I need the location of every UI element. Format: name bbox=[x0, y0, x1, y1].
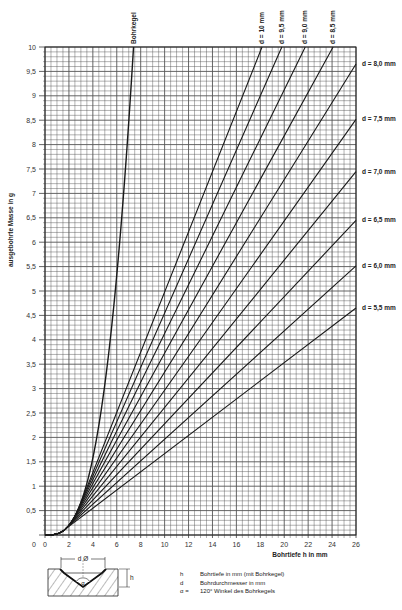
y-tick-label: 5 bbox=[32, 288, 36, 295]
label-top-curve: d = 8,5 mm bbox=[329, 10, 337, 44]
y-tick-label: 2,5 bbox=[26, 410, 36, 417]
y-tick-label: 6,5 bbox=[26, 214, 36, 221]
y-tick-label: 8,5 bbox=[26, 117, 36, 124]
label-right-curve: d = 5,5 mm bbox=[362, 304, 396, 312]
label-bohrkegel: Bohrkegel bbox=[130, 12, 138, 44]
y-tick-label: 10 bbox=[28, 44, 36, 51]
label-right-curve: d = 6,0 mm bbox=[362, 262, 396, 270]
x-tick-label: 24 bbox=[328, 541, 336, 548]
label-right-curve: d = 8,0 mm bbox=[362, 60, 396, 68]
legend-key: h bbox=[180, 570, 200, 579]
x-tick-label: 22 bbox=[304, 541, 312, 548]
y-tick-label: 4 bbox=[32, 336, 36, 343]
x-tick-label: 20 bbox=[280, 541, 288, 548]
x-tick-label: 12 bbox=[185, 541, 193, 548]
y-tick-label: 6 bbox=[32, 239, 36, 246]
legend-text: Bohrtiefe in mm (mit Bohrkegel) bbox=[200, 570, 284, 579]
legend-key: α = bbox=[180, 587, 200, 596]
x-tick-label: 18 bbox=[256, 541, 264, 548]
y-tick-label: 5,5 bbox=[26, 263, 36, 270]
alpha-label: α bbox=[81, 580, 85, 586]
origin-label: 0 bbox=[32, 541, 36, 548]
x-tick-label: 10 bbox=[161, 541, 169, 548]
y-tick-label: 3,5 bbox=[26, 361, 36, 368]
y-tick-label: 9 bbox=[32, 92, 36, 99]
y-tick-label: 3 bbox=[32, 385, 36, 392]
label-top-curve: d = 9,5 mm bbox=[278, 10, 286, 44]
x-tick-label: 2 bbox=[67, 541, 71, 548]
x-tick-label: 8 bbox=[139, 541, 143, 548]
label-right-curve: d = 7,0 mm bbox=[362, 168, 396, 176]
y-tick-label: 1 bbox=[32, 483, 36, 490]
x-tick-label: 14 bbox=[209, 541, 217, 548]
legend-text: Bohrdurchmesser in mm bbox=[200, 579, 265, 588]
y-tick-label: 4,5 bbox=[26, 312, 36, 319]
drill-hole-diagram: α d Ø h bbox=[48, 555, 134, 596]
legend-item-alpha: α = 120° Winkel des Bohrkegels bbox=[180, 587, 284, 596]
x-tick-label: 6 bbox=[115, 541, 119, 548]
legend-text: 120° Winkel des Bohrkegels bbox=[200, 587, 275, 596]
depth-label: h bbox=[130, 574, 134, 581]
y-tick-label: 8 bbox=[32, 141, 36, 148]
y-tick-label: 7,5 bbox=[26, 166, 36, 173]
x-tick-label: 4 bbox=[91, 541, 95, 548]
y-tick-label: 2 bbox=[32, 434, 36, 441]
chart: 024681012141618202224260,511,522,533,544… bbox=[0, 0, 402, 610]
label-top-curve: d = 9,0 mm bbox=[301, 10, 309, 44]
x-axis-label: Bohrtiefe h in mm bbox=[272, 551, 327, 558]
y-tick-label: 0,5 bbox=[26, 507, 36, 514]
x-tick-label: 16 bbox=[232, 541, 240, 548]
label-right-curve: d = 6,5 mm bbox=[362, 216, 396, 224]
diameter-label: d Ø bbox=[78, 555, 88, 562]
legend-key: d bbox=[180, 579, 200, 588]
label-right-curve: d = 7,5 mm bbox=[362, 115, 396, 123]
y-axis-label: ausgebohrte Masse in g bbox=[7, 193, 15, 267]
x-tick-label: 26 bbox=[352, 541, 360, 548]
y-tick-label: 1,5 bbox=[26, 458, 36, 465]
y-tick-label: 9,5 bbox=[26, 68, 36, 75]
label-top-curve: d = 10 mm bbox=[258, 12, 265, 44]
x-tick-label: 0 bbox=[43, 541, 47, 548]
legend: h Bohrtiefe in mm (mit Bohrkegel) d Bohr… bbox=[180, 570, 284, 596]
legend-item-h: h Bohrtiefe in mm (mit Bohrkegel) bbox=[180, 570, 284, 579]
legend-item-d: d Bohrdurchmesser in mm bbox=[180, 579, 284, 588]
y-tick-label: 7 bbox=[32, 190, 36, 197]
